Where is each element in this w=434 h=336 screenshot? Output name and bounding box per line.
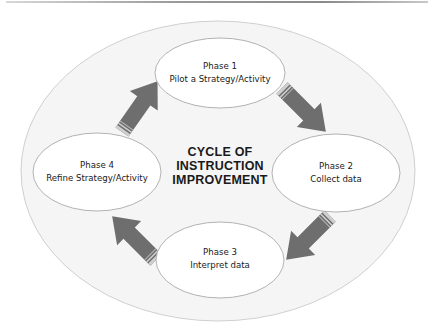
phase2-label: Collect data xyxy=(310,173,362,186)
phase2-title: Phase 2 xyxy=(310,160,362,173)
cycle-title-line-2: INSTRUCTION xyxy=(172,159,267,173)
phase3-title: Phase 3 xyxy=(190,246,250,259)
phase2-node: Phase 2 Collect data xyxy=(310,160,362,186)
phase3-label: Interpret data xyxy=(190,259,250,272)
phase4-node: Phase 4 Refine Strategy/Activity xyxy=(46,159,148,185)
phase4-label: Refine Strategy/Activity xyxy=(46,172,148,185)
phase1-label: Pilot a Strategy/Activity xyxy=(170,73,271,86)
cycle-title-line-1: CYCLE OF xyxy=(172,145,267,159)
cycle-title-line-3: IMPROVEMENT xyxy=(172,173,267,187)
phase1-title: Phase 1 xyxy=(170,60,271,73)
phase3-node: Phase 3 Interpret data xyxy=(190,246,250,272)
phase4-title: Phase 4 xyxy=(46,159,148,172)
cycle-title: CYCLE OF INSTRUCTION IMPROVEMENT xyxy=(172,145,267,187)
phase1-node: Phase 1 Pilot a Strategy/Activity xyxy=(170,60,271,86)
